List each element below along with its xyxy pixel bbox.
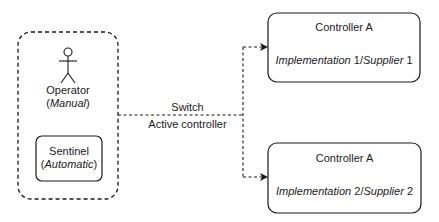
operator-mode: Manual bbox=[50, 97, 86, 109]
controller-2-details: Implementation 2/Supplier 2 bbox=[268, 185, 421, 198]
impl-num: 2 bbox=[354, 185, 360, 197]
sentinel-mode: Automatic bbox=[45, 158, 94, 170]
sentinel-name: Sentinel bbox=[49, 145, 89, 157]
impl-num: 1 bbox=[354, 54, 360, 66]
operator-label: Operator (Manual) bbox=[18, 84, 118, 110]
actor-icon bbox=[59, 48, 77, 83]
controller-1-title: Controller A bbox=[268, 21, 420, 34]
operator-name: Operator bbox=[46, 84, 89, 96]
impl-word: Implementation bbox=[275, 54, 350, 66]
supplier-num: 2 bbox=[407, 185, 413, 197]
controller-1-details: Implementation 1/Supplier 1 bbox=[268, 54, 420, 67]
supplier-word: Supplier bbox=[363, 54, 403, 66]
supplier-word: Supplier bbox=[363, 185, 403, 197]
supplier-num: 1 bbox=[406, 54, 412, 66]
sentinel-label: Sentinel (Automatic) bbox=[36, 145, 102, 171]
impl-word: Implementation bbox=[276, 185, 351, 197]
connector-label-switch: Switch bbox=[150, 101, 225, 114]
controller-2-title: Controller A bbox=[268, 152, 421, 165]
connector-label-active-controller: Active controller bbox=[130, 118, 245, 131]
